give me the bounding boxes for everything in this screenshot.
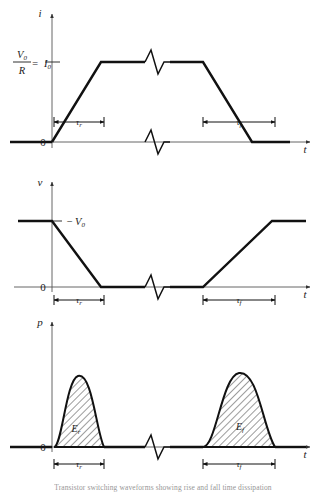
power-hump-rise [54, 376, 104, 447]
voltage-axis-label: v [38, 176, 43, 188]
current-value-numerator: V0 [17, 49, 27, 62]
power-x-axis-label: t [303, 448, 307, 460]
power-tau-r-label: τr [76, 459, 82, 471]
current-x-axis-label: t [303, 143, 307, 155]
current-zero-label: 0 [40, 136, 46, 148]
current-value-denominator: R [18, 65, 26, 76]
voltage-tau-f-label: τf [237, 295, 243, 307]
voltage-tau-r-label: τr [76, 295, 82, 307]
voltage-trace-fall [18, 221, 145, 287]
power-axis-label: p [36, 316, 43, 328]
panel-current [10, 14, 310, 154]
voltage-x-axis-label: t [303, 288, 307, 300]
power-tau-f-label: τf [237, 459, 243, 471]
voltage-v0-label: −V0 [66, 216, 86, 229]
voltage-trace-rise [170, 221, 306, 287]
current-tau-r-label: τr [76, 117, 82, 129]
current-trace-fall [170, 62, 290, 142]
panel-voltage [14, 182, 310, 305]
current-break-symbol [145, 50, 170, 74]
figure-caption: Transistor switching waveforms showing r… [0, 483, 326, 492]
current-value-equals: = [31, 58, 38, 69]
current-axis-label: i [38, 7, 41, 19]
current-value-rhs: I0 [43, 58, 52, 71]
panel-power [10, 322, 310, 469]
voltage-zero-label: 0 [40, 281, 46, 293]
current-trace-rise [52, 62, 145, 142]
power-hump-fall [203, 373, 275, 447]
power-zero-label: 0 [40, 441, 46, 453]
